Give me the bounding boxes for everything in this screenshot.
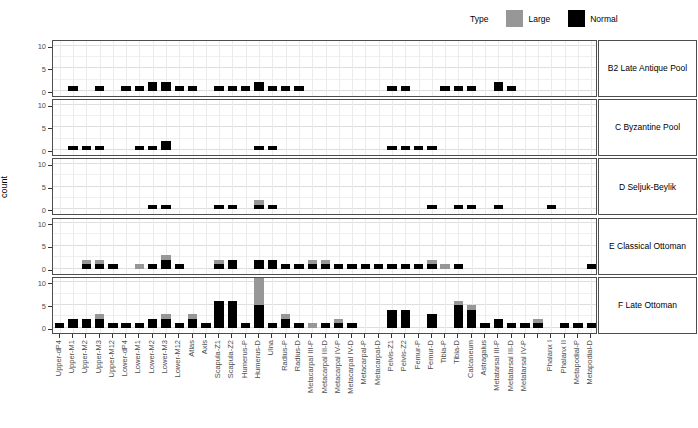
legend-label-normal: Normal [590,14,617,24]
faceted-bar-chart: Type Large Normal count B2 Late Antique … [0,0,698,428]
gridline-v [60,41,61,96]
bar-normal-Calcaneum [467,86,476,91]
gridline-v [379,41,380,96]
x-tick-mark [351,334,352,338]
bar-normal-Metapodial-D [587,264,596,269]
x-tick-label: Tibia-D [452,340,462,364]
bar-normal-Humerus-D [254,260,263,269]
gridline-v [565,100,566,155]
x-tick-mark [85,334,86,338]
gridline-h [53,79,596,80]
gridline-v [246,100,247,155]
bar-normal-Metatarsal III-P [494,82,503,91]
bar-normal- [533,323,542,328]
gridline-v [326,100,327,155]
x-tick-mark [298,334,299,338]
y-tick-mark [48,92,52,93]
bar-normal-Lower-M2 [148,319,157,328]
gridline-v [512,100,513,155]
gridline-v [113,41,114,96]
legend-item-large: Large [506,10,550,27]
bar-normal-Atlas [188,86,197,91]
gridline-v [551,100,552,155]
gridline-v [193,100,194,155]
bar-normal-Pelvis-Z2 [401,310,410,328]
legend-item-normal: Normal [568,10,617,27]
gridline-v [365,41,366,96]
x-tick-mark [192,334,193,338]
gridline-v [538,100,539,155]
gridline-v [113,100,114,155]
facet-strip-label: D Seljuk-Beylik [619,182,676,193]
bar-normal-Axis [201,323,210,328]
bar-large-Tibia-D [454,301,463,306]
y-tick-mark [48,247,52,248]
bar-large-Upper-M2 [82,260,91,265]
bar-normal-Pelvis-Z2 [401,146,410,151]
bar-normal-Astragalus [480,323,489,328]
bar-normal-Tibia-D [454,86,463,91]
x-tick-mark [550,334,551,338]
bar-normal-Metatarsal III-P [494,319,503,328]
x-tick-mark [338,334,339,338]
gridline-v [126,100,127,155]
gridline-v [339,100,340,155]
x-tick-mark [537,334,538,338]
gridline-v [312,41,313,96]
bar-normal-Scapula-Z1 [214,264,223,269]
x-tick-label: Pelvis-Z1 [386,340,396,371]
gridline-h [53,233,596,234]
x-tick-label: Lower-M3 [160,340,170,373]
gridline-v [100,159,101,214]
bar-normal-Ulna [268,323,277,328]
x-tick-label: Upper-M3 [94,340,104,373]
y-tick-label: 0 [32,147,46,156]
x-tick-label: Axis [200,340,210,354]
x-tick-label: Metatarsal III-P [492,340,502,391]
x-tick-mark [577,334,578,338]
gridline-v [591,159,592,214]
bar-normal-Lower-M2 [148,205,157,210]
gridline-v [578,100,579,155]
bar-normal-Pelvis-Z2 [401,86,410,91]
bar-normal-Scapula-Z1 [214,301,223,328]
x-tick-label: Humerus-P [240,340,250,378]
bar-normal-Upper-M3 [95,264,104,269]
y-tick-label: 5 [32,124,46,133]
x-tick-mark [205,334,206,338]
gridline-v [299,100,300,155]
bar-large-Tibia-P [440,264,449,269]
bar-normal-Upper-M12 [108,323,117,328]
panel-1 [52,99,597,156]
bar-normal-Lower-M12 [175,264,184,269]
x-tick-label: Metacarpal III-D [320,340,330,393]
x-tick-label: Metatarsal III-D [506,340,516,391]
bar-normal-Humerus-D [254,82,263,91]
gridline-v [551,219,552,274]
bar-normal-Metacarpal IV-D [347,264,356,269]
bar-normal-Tibia-P [440,86,449,91]
bar-normal-Metacarpal IV-P [334,323,343,328]
x-tick-label: Radius-P [280,340,290,371]
x-tick-label: Lower-M2 [147,340,157,373]
x-tick-label: Phalanx I [545,340,555,371]
x-tick-mark [564,334,565,338]
gridline-v [299,159,300,214]
gridline-h [53,304,596,305]
x-tick-mark [364,334,365,338]
x-tick-mark [285,334,286,338]
y-tick-mark [48,210,52,211]
bar-normal-Radius-D [294,323,303,328]
y-tick-mark [48,306,52,307]
bar-normal-Upper-M3 [95,146,104,151]
bar-normal-Humerus-D [254,146,263,151]
bar-normal-Upper-M1 [68,146,77,151]
gridline-h [53,245,596,246]
panel-3 [52,218,597,275]
bar-normal-Ulna [268,205,277,210]
facet-strip-0: B2 Late Antique Pool [598,40,697,97]
gridline-v [126,159,127,214]
bar-normal-Lower-dP4 [121,86,130,91]
gridline-v [445,159,446,214]
gridline-v [206,219,207,274]
